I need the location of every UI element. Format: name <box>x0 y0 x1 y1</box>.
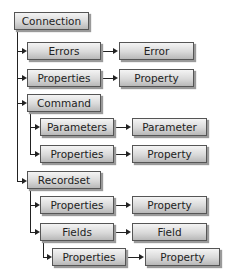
trunk-recordset <box>30 189 31 232</box>
node-parameter: Parameter <box>132 118 207 136</box>
arrow-right-icon <box>126 124 131 130</box>
node-connection: Connection <box>14 12 89 30</box>
node-conn-properties: Properties <box>27 69 101 87</box>
node-fields: Fields <box>40 223 114 241</box>
node-field: Field <box>132 223 207 241</box>
node-field-property: Property <box>145 248 220 266</box>
trunk-fields <box>43 241 44 257</box>
node-rs-properties: Properties <box>40 196 114 214</box>
node-parameters: Parameters <box>40 118 114 136</box>
arrow-right-icon <box>126 151 131 157</box>
node-conn-property: Property <box>119 69 194 87</box>
node-error: Error <box>119 42 194 60</box>
arrow-right-icon <box>113 75 118 81</box>
arrow-right-icon <box>126 202 131 208</box>
trunk-command <box>30 112 31 155</box>
node-command: Command <box>27 94 101 112</box>
node-cmd-property: Property <box>132 145 207 163</box>
node-cmd-properties: Properties <box>40 145 114 163</box>
node-rs-property: Property <box>132 196 207 214</box>
arrow-right-icon <box>113 48 118 54</box>
node-recordset: Recordset <box>27 171 101 189</box>
node-field-properties: Properties <box>52 248 126 266</box>
trunk-connection <box>17 30 18 182</box>
node-errors: Errors <box>27 42 101 60</box>
arrow-right-icon <box>126 229 131 235</box>
arrow-right-icon <box>139 254 144 260</box>
